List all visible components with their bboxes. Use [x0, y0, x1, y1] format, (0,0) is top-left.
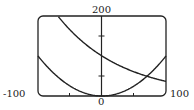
y-max-label: 200: [92, 5, 111, 15]
decreasing-curve: [58, 17, 166, 82]
chart-plot: [0, 0, 194, 110]
x-zero-label: 0: [98, 97, 104, 107]
x-max-label: 100: [170, 89, 189, 99]
x-min-label: -100: [3, 89, 25, 99]
